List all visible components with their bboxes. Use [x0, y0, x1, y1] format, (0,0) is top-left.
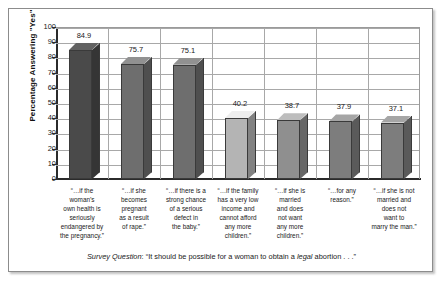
category-label-line: want to — [364, 213, 424, 222]
category-label-line: woman’s — [52, 195, 112, 204]
category-label-line: married and — [364, 195, 424, 204]
bar-value-label: 75.1 — [163, 47, 213, 55]
caption-quote-open: “It should be possible for a woman to ob… — [146, 252, 297, 261]
category-label-line: becomes — [104, 195, 164, 204]
bar — [329, 114, 352, 179]
category-label-line: not want — [260, 213, 320, 222]
bar-front-face — [329, 121, 352, 179]
bar-front-face — [225, 118, 248, 179]
gridline — [56, 89, 419, 90]
bar-side-face — [92, 43, 100, 179]
category-label: “…if she is notmarried anddoes notwant t… — [364, 186, 424, 231]
bar-front-face — [277, 120, 300, 179]
bar — [225, 111, 248, 179]
chart-caption: Survey Question: “It should be possible … — [9, 252, 433, 261]
category-label-line: “…for any — [312, 186, 372, 195]
category-label-line: and does — [260, 204, 320, 213]
bar-value-label: 40.2 — [215, 100, 265, 108]
bar-side-face — [352, 114, 360, 179]
category-label-line: of a serious — [156, 204, 216, 213]
category-label: “…if she ismarriedand doesnot wantany mo… — [260, 186, 320, 241]
category-label-line: marry the man.” — [364, 222, 424, 231]
category-separator — [108, 28, 109, 179]
caption-emphasis: legal — [297, 252, 313, 261]
category-label-line: does not — [364, 204, 424, 213]
category-label: “…if the familyhas a very lowincome andc… — [208, 186, 268, 241]
category-label-line: seriously — [52, 213, 112, 222]
bar-value-label: 37.9 — [319, 103, 369, 111]
category-label-line: “…if she — [104, 186, 164, 195]
gridline — [56, 58, 419, 59]
bar-value-label: 38.7 — [267, 102, 317, 110]
bar — [173, 58, 196, 179]
bar — [381, 116, 404, 179]
category-label-line: “…if the — [52, 186, 112, 195]
category-label-line: defect in — [156, 213, 216, 222]
category-label: “…if there is astrong chanceof a serious… — [156, 186, 216, 231]
category-label-line: the baby.” — [156, 222, 216, 231]
bar-side-face — [300, 113, 308, 179]
bar-side-face — [196, 58, 204, 179]
bar-value-label: 75.7 — [111, 46, 161, 54]
caption-quote-close: abortion . . .” — [313, 252, 357, 261]
category-label: “…if shebecomespregnantas a resultof rap… — [104, 186, 164, 231]
category-label-line: income and — [208, 204, 268, 213]
bar-front-face — [69, 50, 92, 179]
gridline — [56, 43, 419, 44]
chart-figure: Percentage Answering "Yes" 0102030405060… — [8, 8, 433, 272]
category-label-line: own health is — [52, 204, 112, 213]
category-label-line: strong chance — [156, 195, 216, 204]
category-label-line: children.” — [260, 231, 320, 240]
gridline — [56, 28, 419, 29]
category-label-line: “…if she is not — [364, 186, 424, 195]
gridline — [56, 74, 419, 75]
category-label-line: pregnant — [104, 204, 164, 213]
category-label-line: has a very low — [208, 195, 268, 204]
bar-value-label: 84.9 — [59, 32, 109, 40]
category-label-line: as a result — [104, 213, 164, 222]
bar — [121, 57, 144, 179]
category-label-line: married — [260, 195, 320, 204]
caption-lead: Survey Question — [87, 252, 142, 261]
bar-value-label: 37.1 — [371, 105, 421, 113]
category-label-line: children.” — [208, 231, 268, 240]
category-label-line: endangered by — [52, 222, 112, 231]
bar-front-face — [121, 64, 144, 179]
category-label-line: “…if she is — [260, 186, 320, 195]
bar-front-face — [173, 65, 196, 179]
bar-side-face — [144, 57, 152, 179]
bar — [69, 43, 92, 179]
category-label-line: any more — [260, 222, 320, 231]
category-label-line: cannot afford — [208, 213, 268, 222]
category-label: “…for anyreason.” — [312, 186, 372, 204]
bar — [277, 113, 300, 179]
bar-side-face — [248, 111, 256, 179]
category-label-line: reason.” — [312, 195, 372, 204]
category-label-line: the pregnancy.” — [52, 231, 112, 240]
category-label-line: “…if there is a — [156, 186, 216, 195]
category-label: “…if thewoman’sown health isseriouslyend… — [52, 186, 112, 241]
category-label-line: any more — [208, 222, 268, 231]
bar-side-face — [404, 116, 412, 179]
category-label-line: of rape.” — [104, 222, 164, 231]
category-label-line: “…if the family — [208, 186, 268, 195]
bar-front-face — [381, 123, 404, 179]
